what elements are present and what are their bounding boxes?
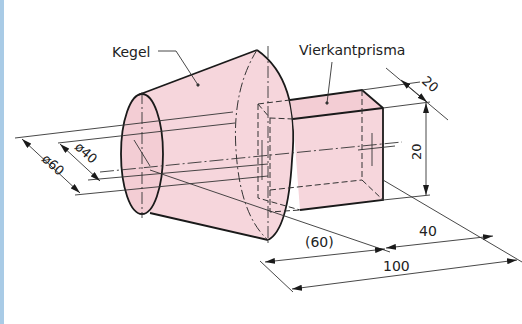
cone-length-label: (60) <box>305 234 334 250</box>
prism-height-label: 20 <box>409 143 424 160</box>
inner-diameter-label: ø40 <box>72 139 100 167</box>
isometric-drawing: Kegel Vierkantprisma ø60 ø40 20 20 (60) … <box>0 0 522 324</box>
prism-label: Vierkantprisma <box>299 42 405 58</box>
prism-depth-label: 20 <box>419 73 441 95</box>
technical-drawing: Kegel Vierkantprisma ø60 ø40 20 20 (60) … <box>0 0 522 324</box>
cone <box>121 46 293 244</box>
outer-diameter-label: ø60 <box>39 151 67 179</box>
prism-length-label: 40 <box>419 223 437 239</box>
total-length-label: 100 <box>383 258 410 274</box>
cone-label: Kegel <box>112 44 151 60</box>
